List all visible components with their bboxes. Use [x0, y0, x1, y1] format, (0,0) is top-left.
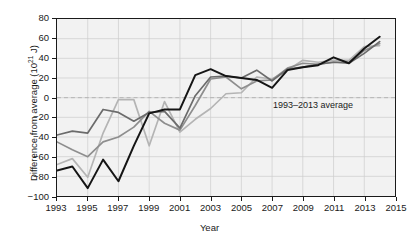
x-tick-mark [334, 197, 335, 201]
x-tick-label: 1995 [76, 203, 97, 213]
y-tick-label: 80 [3, 13, 49, 23]
y-tick-mark [52, 197, 56, 198]
x-tick-mark [56, 197, 57, 201]
x-tick-label: 2015 [385, 203, 406, 213]
series-dark-gray [57, 42, 380, 135]
x-tick-label: 2011 [324, 203, 344, 213]
x-tick-label: 1997 [107, 203, 128, 213]
x-tick-mark [149, 197, 150, 201]
x-axis-label: Year [0, 222, 419, 233]
x-tick-label: 2001 [169, 203, 190, 213]
average-annotation: 1993–2013 average [273, 100, 353, 110]
series-light-gray [57, 46, 380, 178]
x-tick-mark [118, 197, 119, 201]
x-tick-label: 1993 [45, 203, 66, 213]
x-tick-label: 2005 [231, 203, 252, 213]
x-tick-mark [365, 197, 366, 201]
x-tick-label: 2003 [200, 203, 221, 213]
chart-figure: −100−80−60−40−20020406080 19931995199719… [0, 0, 419, 245]
x-tick-label: 2009 [293, 203, 314, 213]
x-tick-mark [241, 197, 242, 201]
x-tick-mark [272, 197, 273, 201]
x-tick-mark [303, 197, 304, 201]
x-tick-mark [180, 197, 181, 201]
x-tick-label: 2013 [355, 203, 376, 213]
x-tick-mark [396, 197, 397, 201]
x-tick-label: 1999 [138, 203, 159, 213]
x-tick-mark [211, 197, 212, 201]
series-black [57, 37, 380, 188]
x-tick-mark [87, 197, 88, 201]
x-tick-label: 2007 [262, 203, 283, 213]
y-axis-label: Difference from average (1021 J) [27, 28, 39, 198]
